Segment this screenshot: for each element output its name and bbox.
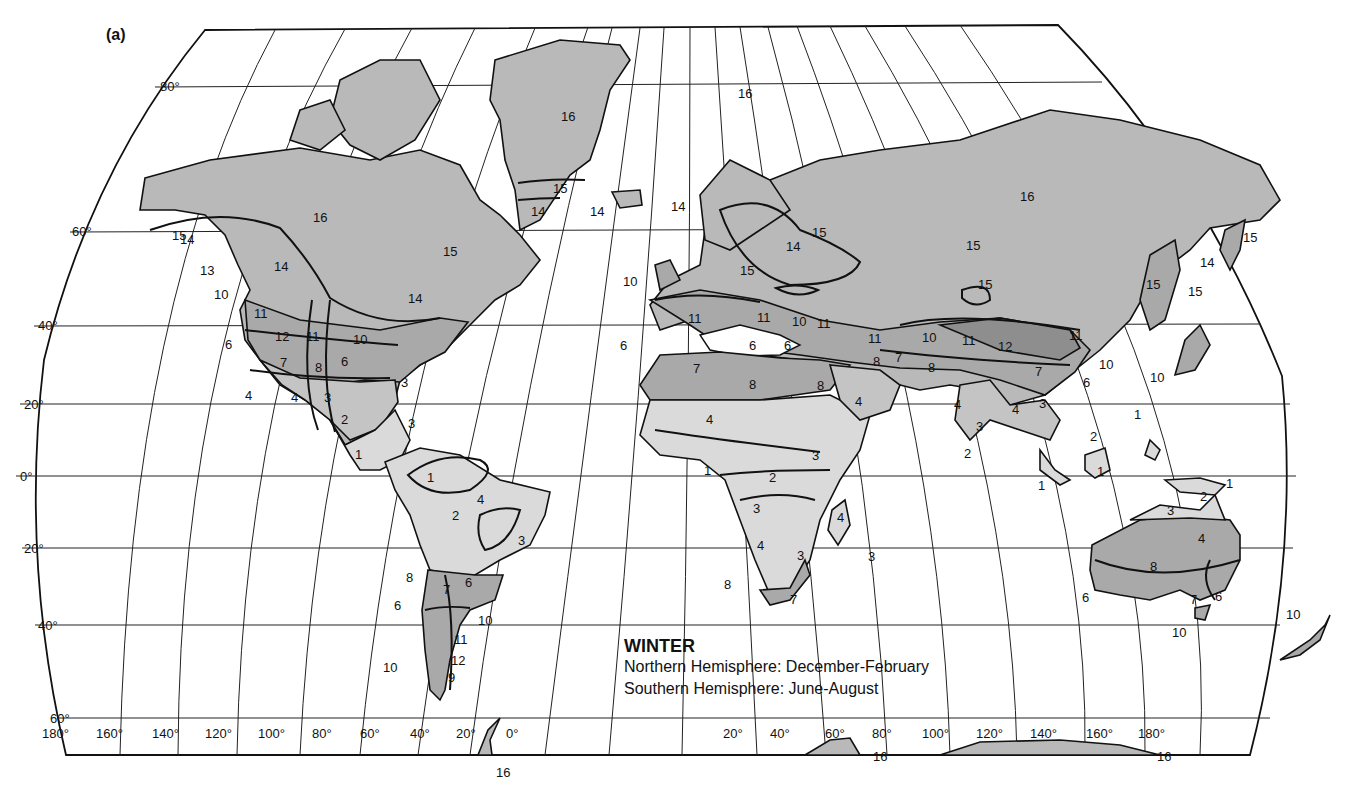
svg-text:6: 6 bbox=[1082, 590, 1089, 605]
svg-text:7: 7 bbox=[443, 582, 450, 597]
svg-text:6: 6 bbox=[749, 338, 756, 353]
svg-text:11: 11 bbox=[306, 329, 320, 344]
svg-text:3: 3 bbox=[797, 548, 804, 563]
svg-text:8: 8 bbox=[749, 377, 756, 392]
lat-label: 0° bbox=[20, 469, 32, 484]
svg-text:2: 2 bbox=[1090, 429, 1097, 444]
svg-text:11: 11 bbox=[868, 331, 882, 346]
svg-text:10: 10 bbox=[214, 287, 228, 302]
svg-text:11: 11 bbox=[1069, 328, 1083, 343]
svg-text:10: 10 bbox=[623, 274, 637, 289]
svg-text:14: 14 bbox=[180, 232, 194, 247]
svg-text:15: 15 bbox=[443, 244, 457, 259]
svg-text:12: 12 bbox=[275, 329, 289, 344]
svg-text:14: 14 bbox=[531, 204, 545, 219]
svg-text:15: 15 bbox=[966, 238, 980, 253]
legend-title: WINTER bbox=[624, 636, 929, 656]
svg-text:3: 3 bbox=[753, 501, 760, 516]
svg-text:8: 8 bbox=[873, 354, 880, 369]
svg-text:6: 6 bbox=[1215, 589, 1222, 604]
svg-text:2: 2 bbox=[452, 508, 459, 523]
lat-label: 40° bbox=[38, 618, 58, 633]
lat-label: 20° bbox=[24, 397, 44, 412]
svg-text:8: 8 bbox=[406, 570, 413, 585]
svg-text:15: 15 bbox=[1188, 284, 1202, 299]
svg-text:10: 10 bbox=[922, 330, 936, 345]
svg-text:6: 6 bbox=[620, 338, 627, 353]
svg-text:12: 12 bbox=[998, 339, 1012, 354]
svg-text:10: 10 bbox=[353, 332, 367, 347]
svg-text:8: 8 bbox=[817, 378, 824, 393]
svg-text:7: 7 bbox=[280, 355, 287, 370]
svg-text:4: 4 bbox=[706, 412, 713, 427]
svg-text:2: 2 bbox=[964, 446, 971, 461]
svg-text:1: 1 bbox=[1226, 476, 1233, 491]
svg-text:4: 4 bbox=[291, 390, 298, 405]
australia bbox=[1090, 495, 1330, 660]
svg-text:1: 1 bbox=[1038, 478, 1045, 493]
svg-text:1: 1 bbox=[355, 447, 362, 462]
svg-text:12: 12 bbox=[451, 653, 465, 668]
svg-text:14: 14 bbox=[1200, 255, 1214, 270]
svg-text:11: 11 bbox=[254, 306, 268, 321]
svg-text:10: 10 bbox=[1099, 357, 1113, 372]
lon-label: 140° bbox=[152, 726, 179, 741]
svg-text:3: 3 bbox=[1167, 503, 1174, 518]
legend-northern-hemisphere: Northern Hemisphere: December-February bbox=[624, 656, 929, 678]
lat-label: 80° bbox=[160, 79, 180, 94]
svg-text:11: 11 bbox=[688, 311, 702, 326]
svg-text:8: 8 bbox=[1150, 559, 1157, 574]
longitude-labels: 180° 160° 140° 120° 100° 80° 60° 40° 20°… bbox=[42, 726, 1165, 741]
lon-label: 0° bbox=[506, 726, 518, 741]
svg-text:14: 14 bbox=[274, 259, 288, 274]
lon-label: 120° bbox=[976, 726, 1003, 741]
svg-text:6: 6 bbox=[394, 598, 401, 613]
svg-text:8: 8 bbox=[928, 360, 935, 375]
lon-label: 40° bbox=[410, 726, 430, 741]
svg-text:6: 6 bbox=[341, 354, 348, 369]
lon-label: 80° bbox=[312, 726, 332, 741]
svg-text:6: 6 bbox=[784, 338, 791, 353]
svg-text:3: 3 bbox=[408, 416, 415, 431]
svg-text:8: 8 bbox=[315, 360, 322, 375]
svg-text:11: 11 bbox=[962, 333, 976, 348]
svg-text:15: 15 bbox=[812, 225, 826, 240]
lat-label: 60° bbox=[50, 711, 70, 726]
svg-text:1: 1 bbox=[1134, 407, 1141, 422]
svg-text:16: 16 bbox=[561, 109, 575, 124]
svg-text:15: 15 bbox=[553, 181, 567, 196]
svg-text:7: 7 bbox=[1035, 364, 1042, 379]
svg-text:10: 10 bbox=[478, 613, 492, 628]
lon-label: 60° bbox=[825, 726, 845, 741]
lon-label: 80° bbox=[872, 726, 892, 741]
lat-label: 20° bbox=[24, 541, 44, 556]
lon-label: 180° bbox=[42, 726, 69, 741]
lon-label: 120° bbox=[205, 726, 232, 741]
svg-text:3: 3 bbox=[1039, 396, 1046, 411]
lat-label: 40° bbox=[38, 318, 58, 333]
svg-text:3: 3 bbox=[976, 419, 983, 434]
svg-text:3: 3 bbox=[812, 448, 819, 463]
svg-text:14: 14 bbox=[408, 291, 422, 306]
svg-text:3: 3 bbox=[868, 549, 875, 564]
svg-text:16: 16 bbox=[1157, 749, 1171, 764]
svg-text:11: 11 bbox=[454, 632, 468, 647]
svg-text:4: 4 bbox=[245, 388, 252, 403]
svg-text:11: 11 bbox=[757, 310, 771, 325]
svg-text:10: 10 bbox=[792, 314, 806, 329]
lon-label: 40° bbox=[770, 726, 790, 741]
svg-text:15: 15 bbox=[1243, 230, 1257, 245]
lon-label: 160° bbox=[1086, 726, 1113, 741]
svg-text:16: 16 bbox=[738, 86, 752, 101]
svg-text:11: 11 bbox=[817, 316, 831, 331]
svg-text:6: 6 bbox=[1083, 375, 1090, 390]
svg-text:13: 13 bbox=[200, 263, 214, 278]
lon-label: 100° bbox=[258, 726, 285, 741]
svg-text:6: 6 bbox=[225, 337, 232, 352]
svg-text:3: 3 bbox=[401, 375, 408, 390]
svg-text:4: 4 bbox=[855, 394, 862, 409]
svg-text:7: 7 bbox=[790, 592, 797, 607]
svg-text:15: 15 bbox=[978, 277, 992, 292]
svg-text:16: 16 bbox=[313, 210, 327, 225]
svg-text:7: 7 bbox=[693, 361, 700, 376]
